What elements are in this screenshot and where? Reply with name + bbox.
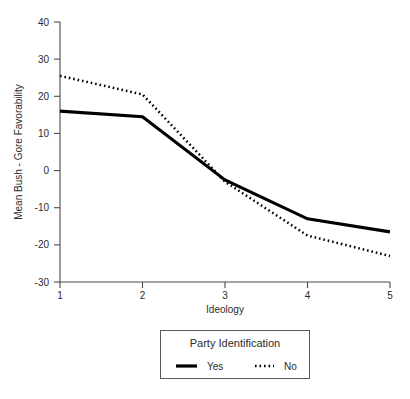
y-axis-title: Mean Bush - Gore Favorability (13, 84, 24, 220)
x-axis-ticks (60, 282, 390, 288)
legend-label-no: No (284, 361, 297, 372)
y-tick-label: -30 (35, 277, 50, 288)
y-tick-label: 40 (38, 17, 50, 28)
legend-title: Party Identification (190, 337, 281, 349)
y-tick-label: 20 (38, 91, 50, 102)
x-tick-label: 4 (305, 290, 311, 301)
chart-figure: 40 30 20 10 0 -10 -20 -30 1 2 3 4 5 Ideo… (0, 0, 410, 399)
line-chart-svg: 40 30 20 10 0 -10 -20 -30 1 2 3 4 5 Ideo… (0, 0, 410, 399)
x-axis-title: Ideology (206, 304, 244, 315)
legend-label-yes: Yes (207, 361, 223, 372)
y-tick-label: 30 (38, 54, 50, 65)
series-line-yes (60, 111, 390, 232)
y-tick-label: 10 (38, 128, 50, 139)
y-tick-label: 0 (43, 165, 49, 176)
y-tick-label: -10 (35, 202, 50, 213)
x-tick-label: 3 (222, 290, 228, 301)
legend: Party Identification Yes No (161, 331, 310, 379)
y-tick-label: -20 (35, 239, 50, 250)
x-tick-label: 5 (387, 290, 393, 301)
y-axis-ticks (54, 22, 60, 282)
series-line-no (60, 76, 390, 256)
x-tick-label: 1 (57, 290, 63, 301)
x-tick-label: 2 (140, 290, 146, 301)
